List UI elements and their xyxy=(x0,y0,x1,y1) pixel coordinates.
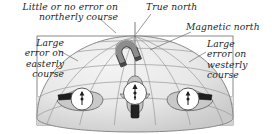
label-magnetic-north: Magnetic north xyxy=(186,22,272,32)
magnetic-compass-error-figure: Little or no error on northerly course L… xyxy=(0,0,272,134)
leader-true-north xyxy=(136,14,151,34)
label-true-north: True north xyxy=(146,2,216,12)
aircraft-icon xyxy=(131,104,139,118)
label-easterly-course: Large error on easterly course xyxy=(2,38,64,80)
label-northerly-course: Little or no error on northerly course xyxy=(6,2,118,23)
label-westerly-course: Large error on westerly course xyxy=(207,39,271,81)
